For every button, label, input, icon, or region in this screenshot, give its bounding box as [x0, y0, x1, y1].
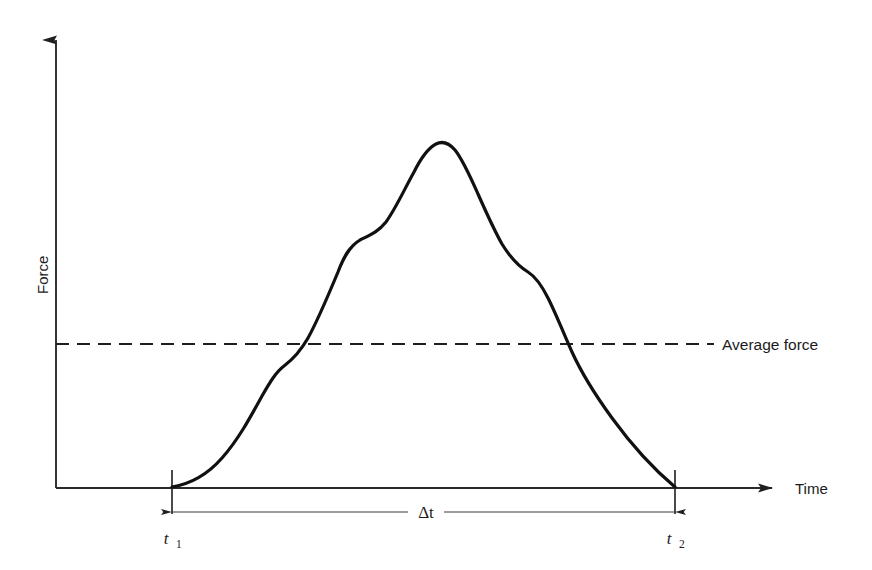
t1-symbol: t — [164, 529, 170, 548]
t2-symbol: t — [667, 529, 673, 548]
force-time-chart-svg: Force Time Average force Δt t 1 t 2 — [0, 0, 872, 570]
t2-subscript: 2 — [679, 538, 685, 550]
tick-label-t1: t 1 — [164, 529, 182, 550]
average-force-label: Average force — [722, 336, 818, 353]
tick-label-t2: t 2 — [667, 529, 685, 550]
y-axis-label: Force — [34, 256, 51, 294]
force-time-figure: Force Time Average force Δt t 1 t 2 — [0, 0, 872, 570]
delta-t-label: Δt — [418, 503, 434, 522]
t1-subscript: 1 — [176, 538, 182, 550]
force-curve — [172, 143, 675, 487]
x-axis-label: Time — [795, 480, 828, 497]
